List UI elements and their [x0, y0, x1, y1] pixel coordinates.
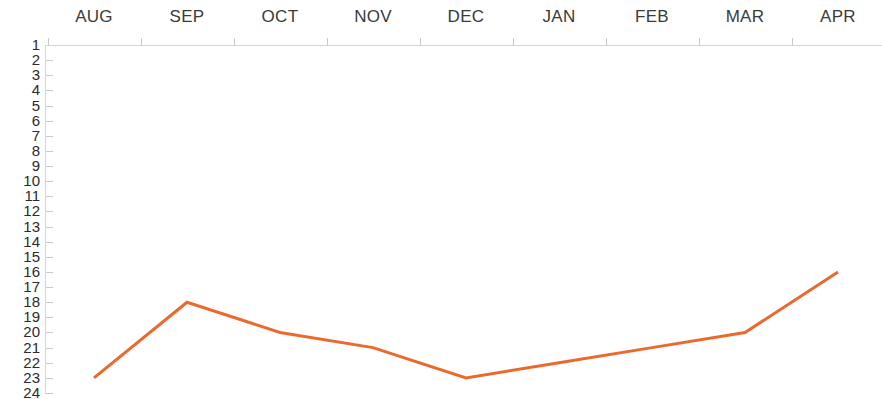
y-axis-tick-8 [46, 151, 53, 152]
y-axis-tick-22 [46, 363, 53, 364]
x-axis-tick-feb [606, 38, 607, 46]
y-axis-tick-7 [46, 136, 53, 137]
y-axis-tick-6 [46, 121, 53, 122]
x-axis-tick-dec [420, 38, 421, 46]
y-axis-tick-11 [46, 196, 53, 197]
y-axis-tick-18 [46, 302, 53, 303]
series-rank-line [0, 0, 882, 399]
y-axis-tick-14 [46, 242, 53, 243]
x-axis-tick-jan [513, 38, 514, 46]
y-axis-tick-13 [46, 227, 53, 228]
x-axis-tick-apr [792, 38, 793, 46]
y-axis-tick-23 [46, 378, 53, 379]
y-axis-tick-3 [46, 75, 53, 76]
x-axis-tick-oct [234, 38, 235, 46]
y-axis-tick-4 [46, 90, 53, 91]
x-axis-tick-sep [141, 38, 142, 46]
x-axis-tick-nov [327, 38, 328, 46]
y-axis-tick-12 [46, 211, 53, 212]
y-axis-tick-2 [46, 60, 53, 61]
y-axis-tick-17 [46, 287, 53, 288]
y-axis-tick-5 [46, 106, 53, 107]
plot-area [0, 0, 882, 399]
y-axis-tick-10 [46, 181, 53, 182]
y-axis-tick-9 [46, 166, 53, 167]
y-axis-tick-24 [46, 393, 53, 394]
y-axis-tick-19 [46, 317, 53, 318]
y-axis-tick-20 [46, 332, 53, 333]
y-axis-tick-21 [46, 348, 53, 349]
y-axis-tick-15 [46, 257, 53, 258]
x-axis-tick-aug [48, 38, 49, 46]
rank-line-chart: AUGSEPOCTNOVDECJANFEBMARAPR 123456789101… [0, 0, 882, 399]
y-axis-tick-16 [46, 272, 53, 273]
rank-series-path [94, 272, 838, 378]
x-axis-tick-mar [699, 38, 700, 46]
